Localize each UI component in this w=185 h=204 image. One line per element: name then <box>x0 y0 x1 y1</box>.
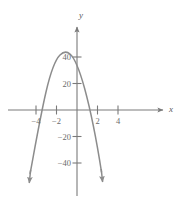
coordinate-plot <box>0 0 185 204</box>
parabola-curve <box>30 52 101 173</box>
y-tick-label-minus20: −20 <box>58 132 71 141</box>
y-tick-label-plus40: 40 <box>63 53 72 62</box>
graph-figure: −4 −2 2 4 40 20 −20 −40 x y <box>0 0 185 204</box>
x-axis-label: x <box>169 105 173 114</box>
x-axis-group <box>8 106 163 115</box>
x-tick-label-minus4: −4 <box>31 117 40 126</box>
x-tick-label-minus2: −2 <box>52 117 61 126</box>
parabola-left-arrow <box>29 170 30 183</box>
parabola-right-arrow <box>101 169 102 182</box>
x-tick-label-plus2: 2 <box>95 117 99 126</box>
y-tick-label-minus40: −40 <box>58 159 71 168</box>
y-tick-label-plus20: 20 <box>63 79 72 88</box>
y-axis-group <box>73 27 82 196</box>
x-tick-label-plus4: 4 <box>116 117 120 126</box>
y-axis-label: y <box>79 11 83 20</box>
